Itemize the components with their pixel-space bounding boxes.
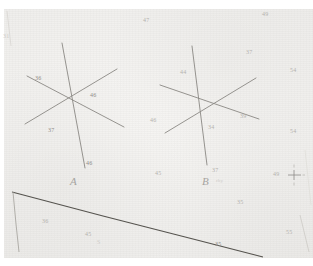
grid-tick-icon	[283, 164, 305, 186]
elevation-label: 31	[3, 33, 9, 39]
elevation-label: 49	[273, 171, 279, 177]
elevation-label: 34	[208, 124, 214, 130]
survey-grid-tick	[283, 164, 305, 190]
station-label-b: B	[202, 175, 209, 187]
elevation-label: 54	[290, 128, 296, 134]
survey-photo-canvas: AB rhy 314749375436444639463437544645374…	[0, 0, 313, 266]
elevation-label: 46	[86, 160, 92, 166]
elevation-label: 49	[262, 11, 268, 17]
elevation-label: 36	[35, 75, 41, 81]
elevation-label: 45	[155, 170, 161, 176]
annotation-near-station-b: rhy	[216, 178, 223, 183]
elevation-label: 47	[143, 17, 149, 23]
ray-a-nw-se	[27, 76, 124, 127]
frame-fragment-right	[305, 150, 311, 205]
elevation-label: 54	[290, 67, 296, 73]
ray-a-steep	[62, 43, 85, 168]
elevation-label: 37	[212, 167, 218, 173]
elevation-label: 44	[180, 69, 186, 75]
elevation-label: 55	[286, 229, 292, 235]
elevation-label: 39	[240, 113, 246, 119]
elevation-label: 46	[90, 92, 96, 98]
station-label-a: A	[70, 175, 77, 187]
elevation-label: 37	[246, 49, 252, 55]
ink-overlay	[0, 0, 313, 266]
elevation-label: 45	[85, 231, 91, 237]
elevation-label: 35	[215, 241, 221, 247]
radial-star-b	[160, 46, 259, 165]
left-parcel-edge-line	[13, 192, 19, 252]
radial-star-a	[25, 43, 124, 168]
diagonal-boundary-line	[12, 192, 263, 257]
elevation-label: 36	[42, 218, 48, 224]
elevation-label: 35	[237, 199, 243, 205]
elevation-label: 46	[150, 117, 156, 123]
elevation-label: 37	[48, 127, 54, 133]
elevation-label: S	[97, 239, 101, 245]
frame-fragment-bottom-right	[300, 215, 309, 252]
ray-b-steep	[192, 46, 207, 165]
frame-fragment-top-left	[7, 11, 11, 46]
